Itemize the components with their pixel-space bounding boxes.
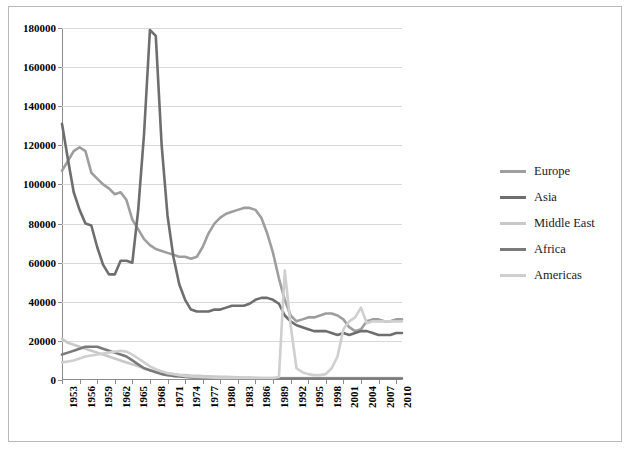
y-tick-label: 140000: [23, 100, 56, 112]
x-tick-mark: [203, 380, 204, 384]
x-tick-mark: [396, 380, 397, 384]
x-tick-label: 1980: [225, 386, 237, 408]
x-tick-label: 1968: [155, 386, 167, 408]
legend-item[interactable]: Middle East: [500, 210, 610, 236]
x-tick-mark: [308, 380, 309, 384]
x-tick-mark: [291, 380, 292, 384]
x-tick-label: 1971: [173, 386, 185, 408]
x-tick-mark: [97, 380, 98, 384]
x-tick-label: 2004: [366, 386, 378, 408]
y-tick-label: 0: [51, 374, 57, 386]
y-tick-label: 20000: [29, 335, 57, 347]
legend-label: Asia: [534, 190, 557, 205]
x-tick-mark: [62, 380, 63, 384]
x-tick-label: 1995: [313, 386, 325, 408]
legend-swatch: [500, 274, 526, 277]
x-tick-label: 1953: [67, 386, 79, 408]
x-tick-label: 1956: [85, 386, 97, 408]
y-tick-label: 80000: [29, 218, 57, 230]
y-tick-label: 160000: [23, 61, 56, 73]
x-tick-mark: [326, 380, 327, 384]
x-tick-label: 1983: [243, 386, 255, 408]
x-tick-label: 1986: [260, 386, 272, 408]
legend-label: Middle East: [534, 216, 595, 231]
x-tick-mark: [115, 380, 116, 384]
legend-label: Europe: [534, 164, 570, 179]
y-tick-label: 60000: [29, 257, 57, 269]
chart-legend: EuropeAsiaMiddle EastAfricaAmericas: [500, 158, 610, 288]
x-tick-mark: [273, 380, 274, 384]
legend-swatch: [500, 170, 526, 173]
x-tick-mark: [379, 380, 380, 384]
legend-item[interactable]: Americas: [500, 262, 610, 288]
x-tick-label: 1974: [190, 386, 202, 408]
x-tick-label: 1959: [102, 386, 114, 408]
x-tick-label: 1992: [296, 386, 308, 408]
series-line: [62, 339, 402, 378]
series-line: [62, 270, 402, 378]
legend-item[interactable]: Africa: [500, 236, 610, 262]
x-tick-label: 1998: [331, 386, 343, 408]
x-tick-label: 2007: [384, 386, 396, 408]
series-line: [62, 30, 402, 335]
x-tick-label: 2001: [348, 386, 360, 408]
x-tick-mark: [220, 380, 221, 384]
x-tick-mark: [255, 380, 256, 384]
x-tick-mark: [238, 380, 239, 384]
plot-area: 0200004000060000800001000001200001400001…: [62, 28, 402, 380]
series-line: [62, 147, 402, 331]
x-tick-label: 1962: [120, 386, 132, 408]
y-tick-label: 120000: [23, 139, 56, 151]
x-tick-label: 1977: [208, 386, 220, 408]
x-tick-mark: [80, 380, 81, 384]
legend-swatch: [500, 196, 526, 199]
legend-item[interactable]: Europe: [500, 158, 610, 184]
y-tick-label: 100000: [23, 178, 56, 190]
x-tick-mark: [150, 380, 151, 384]
legend-swatch: [500, 248, 526, 251]
x-tick-label: 1965: [137, 386, 149, 408]
y-tick-label: 40000: [29, 296, 57, 308]
x-tick-mark: [168, 380, 169, 384]
legend-label: Africa: [534, 242, 566, 257]
legend-item[interactable]: Asia: [500, 184, 610, 210]
x-tick-label: 2010: [401, 386, 413, 408]
legend-swatch: [500, 222, 526, 225]
legend-label: Americas: [534, 268, 582, 283]
x-tick-mark: [132, 380, 133, 384]
chart-root: 0200004000060000800001000001200001400001…: [0, 0, 636, 453]
y-tick-label: 180000: [23, 22, 56, 34]
x-tick-mark: [361, 380, 362, 384]
series-lines: [62, 28, 402, 380]
x-tick-mark: [185, 380, 186, 384]
x-tick-label: 1989: [278, 386, 290, 408]
x-tick-mark: [343, 380, 344, 384]
